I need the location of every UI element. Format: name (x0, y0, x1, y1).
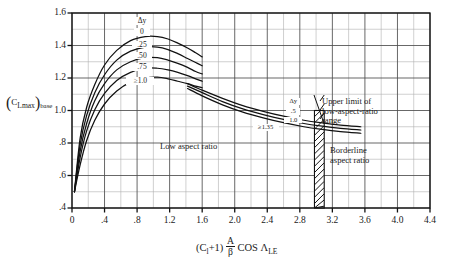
aspect-ratio-beta-fraction: A β (226, 236, 235, 257)
curve-label-dy-025: .25 (132, 41, 152, 49)
x-axis-lambda-sub: LE (268, 247, 277, 256)
figure-cl-max-base-chart: 1.61.41.21.0.8.6.4 0.4.81.21.62.02.42.83… (0, 0, 451, 265)
x-axis-c: C (200, 242, 207, 253)
x-tick-label: .8 (122, 215, 152, 225)
curve-label-delta-y-left: Δy (134, 17, 150, 25)
x-tick-label: 0 (57, 215, 87, 225)
y-axis-sub-max: max (22, 101, 35, 110)
annotation-upper-limit: Upper limit of low-aspect-ratio range (322, 97, 378, 126)
x-tick-label: 1.6 (187, 215, 217, 225)
annotation-upper-limit-line3: range (322, 116, 378, 126)
annotation-low-aspect-ratio-text: Low aspect ratio (160, 141, 217, 151)
x-tick-label: .4 (90, 215, 120, 225)
y-axis-title: (CLmax)base (6, 96, 52, 110)
y-tick-label: 1.6 (40, 7, 66, 17)
x-tick-label: 3.6 (350, 215, 380, 225)
x-tick-label: 4.4 (415, 215, 445, 225)
curve-label-dy-075: .75 (132, 63, 152, 71)
annotation-borderline-line2: aspect ratio (330, 156, 369, 166)
x-tick-label: 2.0 (220, 215, 250, 225)
annotation-low-aspect-ratio: Low aspect ratio (160, 142, 217, 152)
curve-label-delta-y-right: Δy (286, 98, 300, 105)
x-tick-label: 4.0 (382, 215, 412, 225)
x-axis-cos: COS (238, 242, 258, 253)
annotation-borderline: Borderline aspect ratio (330, 146, 369, 165)
x-tick-label: 2.4 (252, 215, 282, 225)
curve-label-hi-05: .5 (286, 108, 300, 115)
y-tick-label: .6 (40, 170, 66, 180)
curve-label-dy-0: 0 (134, 28, 150, 36)
curve-label-hi-10: 1.0 (284, 117, 302, 124)
x-tick-label: 2.8 (285, 215, 315, 225)
y-axis-sub-base: base (40, 102, 52, 109)
y-tick-label: 1.4 (40, 40, 66, 50)
curve-label-hi-ge-135: ≥1.35 (253, 124, 279, 131)
curve-label-dy-ge-10: ≥1.0 (126, 77, 154, 85)
y-tick-label: .8 (40, 137, 66, 147)
x-axis-plus-one: +1) (209, 242, 224, 253)
curve-label-dy-050: .50 (132, 52, 152, 60)
x-tick-label: 1.2 (155, 215, 185, 225)
x-tick-label: 3.2 (317, 215, 347, 225)
x-axis-title: (Cl+1) A β COS ΛLE (196, 236, 277, 257)
chart-plot-area (0, 0, 451, 265)
fraction-denominator-beta: β (226, 247, 235, 257)
y-tick-label: 1.2 (40, 72, 66, 82)
y-tick-label: .4 (40, 202, 66, 212)
